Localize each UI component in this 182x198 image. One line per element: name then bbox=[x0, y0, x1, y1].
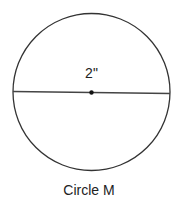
center-point bbox=[89, 90, 93, 94]
diameter-label: 2" bbox=[85, 65, 98, 81]
circle-diagram: 2" Circle M bbox=[0, 0, 182, 198]
circle-caption: Circle M bbox=[63, 182, 114, 198]
